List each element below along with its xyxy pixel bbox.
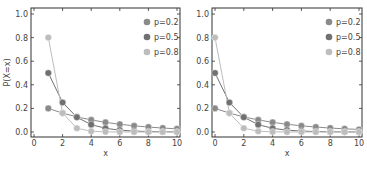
data-point: [74, 125, 81, 132]
y-tick-label: 0.8: [15, 34, 28, 43]
data-point: [269, 129, 276, 136]
legend-marker: [144, 19, 151, 26]
y-tick-label: 0.8: [196, 34, 209, 43]
data-point: [45, 105, 52, 112]
legend: p=0.2p=0.5p=0.8: [326, 18, 361, 57]
x-tick-label: 4: [89, 139, 94, 148]
data-point: [255, 121, 262, 128]
data-point: [212, 34, 219, 41]
data-point: [102, 129, 109, 136]
data-point: [341, 129, 348, 136]
y-axis-label: P(X=x): [3, 59, 12, 87]
x-tick-label: 8: [146, 139, 151, 148]
data-point: [356, 129, 363, 136]
y-tick-label: 1.0: [15, 10, 28, 19]
data-point: [226, 110, 233, 117]
data-point: [212, 105, 219, 112]
data-point: [284, 121, 291, 128]
plot-frame: [212, 8, 362, 137]
y-tick-label: 0.6: [15, 57, 28, 66]
legend-marker: [144, 49, 151, 56]
y-tick-label: 0.0: [15, 128, 28, 137]
x-tick-label: 6: [117, 139, 122, 148]
y-tick-label: 0.0: [196, 128, 209, 137]
data-point: [117, 121, 124, 128]
legend-label: p=0.8: [336, 48, 361, 57]
x-tick-label: 10: [354, 139, 364, 148]
data-point: [255, 128, 262, 135]
y-tick-label: 0.6: [196, 57, 209, 66]
x-tick-label: 8: [328, 139, 333, 148]
data-point: [45, 70, 52, 77]
x-tick-label: 0: [31, 139, 36, 148]
legend-label: p=0.2: [154, 18, 179, 27]
y-tick-label: 0.4: [15, 81, 28, 90]
y-tick-label: 0.2: [15, 104, 28, 113]
chart-1: 02468100.00.20.40.60.81.0xP(X=x)p=0.2p=0…: [3, 8, 182, 158]
x-axis-label: x: [103, 149, 108, 158]
legend-marker: [326, 49, 333, 56]
x-tick-label: 6: [299, 139, 304, 148]
charts-canvas: 02468100.00.20.40.60.81.0xP(X=x)p=0.2p=0…: [0, 0, 367, 169]
data-point: [88, 121, 95, 128]
data-point: [145, 129, 152, 136]
data-point: [45, 34, 52, 41]
x-tick-label: 0: [212, 139, 217, 148]
data-point: [59, 110, 66, 117]
legend-label: p=0.5: [336, 33, 361, 42]
data-point: [284, 129, 291, 136]
x-tick-label: 4: [270, 139, 275, 148]
y-tick-label: 0.2: [196, 104, 209, 113]
legend-label: p=0.8: [154, 48, 179, 57]
x-tick-label: 2: [60, 139, 65, 148]
data-point: [59, 99, 66, 106]
legend: p=0.2p=0.5p=0.8: [144, 18, 179, 57]
data-point: [226, 99, 233, 106]
x-tick-label: 10: [172, 139, 182, 148]
data-point: [117, 129, 124, 136]
x-axis-label: x: [285, 149, 290, 158]
legend-marker: [326, 19, 333, 26]
data-point: [212, 70, 219, 77]
y-tick-label: 0.4: [196, 81, 209, 90]
data-point: [327, 129, 334, 136]
legend-marker: [326, 34, 333, 41]
data-point: [159, 129, 166, 136]
data-point: [102, 119, 109, 126]
legend-label: p=0.2: [336, 18, 361, 27]
x-tick-label: 2: [241, 139, 246, 148]
plot-frame: [31, 8, 180, 137]
legend-label: p=0.5: [154, 33, 179, 42]
data-point: [131, 129, 138, 136]
data-point: [241, 114, 248, 121]
data-point: [174, 129, 181, 136]
data-point: [298, 129, 305, 136]
data-point: [313, 129, 320, 136]
legend-marker: [144, 34, 151, 41]
chart-2: 02468100.00.20.40.60.81.0xp=0.2p=0.5p=0.…: [196, 8, 364, 158]
data-point: [88, 128, 95, 135]
data-point: [241, 125, 248, 132]
data-point: [269, 119, 276, 126]
data-point: [74, 114, 81, 121]
y-tick-label: 1.0: [196, 10, 209, 19]
